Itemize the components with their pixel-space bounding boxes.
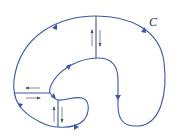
arrow-head-icon — [115, 95, 121, 100]
outer-boundary-curve — [50, 16, 165, 126]
arrow-head-icon — [66, 64, 71, 70]
outer-left-arc — [14, 16, 96, 127]
curve-label-c: C — [149, 15, 158, 29]
inner-small-lobe — [50, 93, 88, 127]
diagram-canvas: C — [0, 0, 183, 138]
arrow-head-icon — [51, 93, 56, 99]
